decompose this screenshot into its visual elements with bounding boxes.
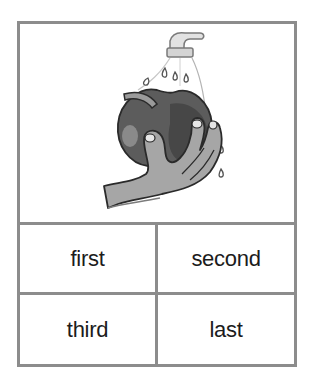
option-second[interactable]: second [158, 225, 294, 295]
option-third[interactable]: third [20, 295, 158, 364]
option-last[interactable]: last [158, 295, 294, 364]
washing-apple-illustration [20, 24, 294, 222]
faucet-icon [167, 33, 204, 57]
option-first[interactable]: first [20, 225, 158, 295]
illustration-panel [20, 24, 294, 222]
sequence-card: first second third last [17, 21, 297, 367]
answer-grid: first second third last [20, 222, 294, 364]
